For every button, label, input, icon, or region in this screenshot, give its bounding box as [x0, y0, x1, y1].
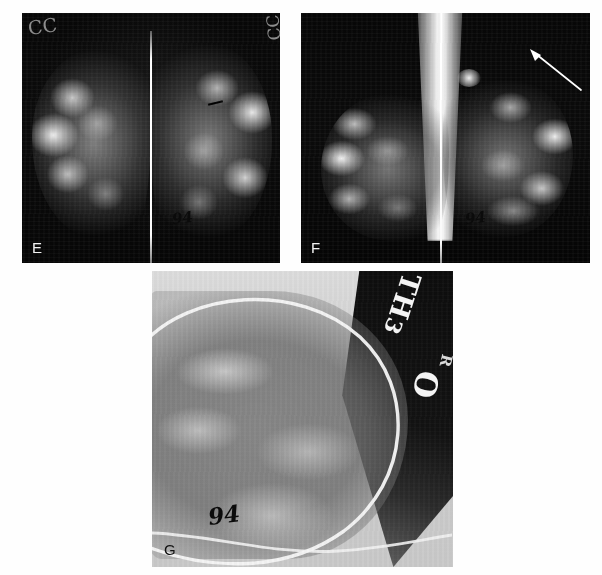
panel-f-handwritten-year: 94 [464, 210, 487, 227]
panel-e-film-marker-cc-left: CC [27, 15, 58, 38]
panel-f-annotation-arrow-icon [526, 47, 584, 93]
panel-f-letter-label: F [311, 240, 321, 255]
panel-e-letter-label: E [32, 240, 43, 255]
panel-e-bilateral-cc-view[interactable]: CC CC 94 E [22, 13, 280, 263]
panel-g-magnified-spot-view[interactable]: TH 3 O R 94 G [152, 271, 453, 567]
panel-g-handwritten-year: 94 [207, 501, 242, 528]
panel-f-nodular-focus [457, 69, 481, 87]
panel-e-handwritten-year: 94 [171, 210, 194, 227]
panel-f-left-breast-parenchyma [443, 75, 573, 237]
panel-g-film: TH 3 O R 94 G [152, 271, 453, 567]
panel-f-bilateral-mlo-view[interactable]: 94 F [301, 13, 590, 263]
panel-e-film: CC CC 94 E [22, 13, 280, 263]
panel-f-film: 94 F [301, 13, 590, 263]
panel-g-letter-label: G [164, 542, 176, 557]
radiology-figure: CC CC 94 E 94 F [0, 0, 602, 575]
panel-e-film-midline [150, 31, 152, 263]
panel-e-film-marker-cc-right: CC [264, 14, 280, 42]
panel-f-film-midline [440, 13, 442, 263]
